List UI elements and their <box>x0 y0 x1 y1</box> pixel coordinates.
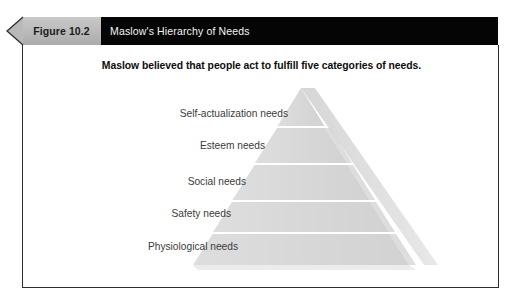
chevron-left-icon <box>7 17 23 45</box>
figure-title: Maslow's Hierarchy of Needs <box>110 17 250 45</box>
figure-caption: Maslow believed that people act to fulfi… <box>23 60 500 71</box>
figure-container: Figure 10.2 Maslow's Hierarchy of Needs … <box>0 0 518 302</box>
pyramid-label-self-actualization: Self-actualization needs <box>180 108 288 119</box>
pyramid-label-social: Social needs <box>188 176 246 187</box>
figure-body: Maslow believed that people act to fulfi… <box>22 45 499 288</box>
pyramid-label-esteem: Esteem needs <box>200 140 265 151</box>
figure-number-label: Figure 10.2 <box>22 17 101 45</box>
figure-number-tab: Figure 10.2 <box>22 17 101 45</box>
pyramid-label-safety: Safety needs <box>172 208 231 219</box>
figure-header: Figure 10.2 Maslow's Hierarchy of Needs <box>22 17 498 45</box>
figure-title-bar: Maslow's Hierarchy of Needs <box>101 17 498 45</box>
pyramid-label-physiological: Physiological needs <box>148 241 238 252</box>
